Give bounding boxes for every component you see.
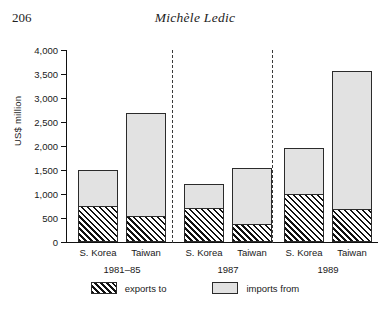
y-tick-label: 0 — [53, 237, 58, 248]
bar-1987-taiwan — [232, 168, 272, 242]
legend-swatch-solid-icon — [212, 282, 238, 294]
bar-segment-exports-to — [332, 209, 372, 242]
group-label-1987: 1987 — [217, 264, 238, 275]
y-tick-label: 4,000 — [34, 45, 58, 56]
legend-item-imports-from: imports from — [212, 282, 299, 294]
bar-segment-exports-to — [284, 194, 324, 242]
bar-1989-s-korea — [284, 148, 324, 242]
legend-item-exports-to: exports to — [91, 282, 167, 294]
group-separator-2 — [272, 50, 273, 243]
legend-swatch-hatch-icon — [91, 282, 117, 294]
bar-1989-taiwan — [332, 71, 372, 242]
x-tick-label-s-korea: S. Korea — [286, 247, 323, 258]
bar-1981-85-s-korea — [78, 170, 118, 242]
running-head: Michèle Ledic — [0, 10, 390, 26]
y-tick-label: 3,500 — [34, 69, 58, 80]
bar-1987-s-korea — [184, 184, 224, 242]
y-tick-label: 2,500 — [34, 117, 58, 128]
bar-segment-exports-to — [126, 216, 166, 242]
group-label-1981-85: 1981–85 — [104, 264, 141, 275]
bar-segment-exports-to — [232, 224, 272, 242]
y-tick-label: 1,000 — [34, 189, 58, 200]
y-axis-line — [66, 50, 67, 243]
x-tick-label-taiwan: Taiwan — [131, 247, 161, 258]
legend-label: exports to — [125, 283, 167, 294]
x-axis-line — [66, 242, 378, 243]
bar-chart-figure: US$ million 4,000 3,500 3,000 2,500 2,00… — [0, 34, 390, 311]
y-tick-label: 1,500 — [34, 165, 58, 176]
y-tick-label: 3,000 — [34, 93, 58, 104]
y-axis-title: US$ million — [12, 96, 23, 146]
x-tick-label-taiwan: Taiwan — [237, 247, 267, 258]
y-tick-label: 2,000 — [34, 141, 58, 152]
legend-label: imports from — [246, 283, 299, 294]
x-tick-label-taiwan: Taiwan — [337, 247, 367, 258]
group-label-1989: 1989 — [317, 264, 338, 275]
x-tick-label-s-korea: S. Korea — [80, 247, 117, 258]
bar-segment-exports-to — [78, 206, 118, 242]
bar-1981-85-taiwan — [126, 113, 166, 242]
y-tick-label: 500 — [42, 213, 58, 224]
chart-legend: exports to imports from — [0, 282, 390, 294]
group-separator-1 — [172, 50, 173, 243]
bar-segment-exports-to — [184, 208, 224, 242]
x-tick-label-s-korea: S. Korea — [186, 247, 223, 258]
